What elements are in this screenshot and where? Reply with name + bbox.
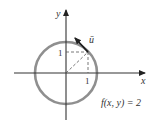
- y-tick-label-1: 1: [58, 48, 63, 58]
- diagram-canvas: y x 1 1 ū f(x, y) = 2: [0, 0, 155, 129]
- y-axis-label: y: [55, 8, 61, 19]
- level-curve-equation: f(x, y) = 2: [101, 97, 141, 109]
- vector-u-label: ū: [89, 34, 94, 45]
- x-axis-label: x: [140, 75, 146, 86]
- x-tick-label-1: 1: [85, 76, 90, 86]
- dashed-radius-guide: [66, 52, 88, 73]
